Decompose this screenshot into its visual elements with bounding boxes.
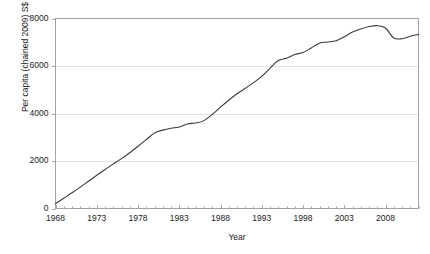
x-tick-label: 1983	[159, 214, 199, 223]
x-tick-label: 1998	[283, 214, 323, 223]
chart-container: 02000400060008000 1968197319781983198819…	[0, 0, 430, 254]
x-tick-label: 1973	[77, 214, 117, 223]
x-tick-label: 1988	[201, 214, 241, 223]
x-tick-label: 1968	[36, 214, 76, 223]
y-tick-label: 2000	[7, 156, 49, 165]
y-tick-label: 0	[7, 204, 49, 213]
y-axis-title: Per capita (chained 2009) S$	[20, 0, 30, 152]
plot-frame-border	[56, 19, 419, 209]
x-tick-label: 2008	[366, 214, 406, 223]
x-axis-title: Year	[55, 232, 419, 242]
x-tick-label: 2003	[324, 214, 364, 223]
x-tick-label: 1978	[118, 214, 158, 223]
gridlines	[56, 67, 419, 162]
x-tick-label: 1993	[242, 214, 282, 223]
